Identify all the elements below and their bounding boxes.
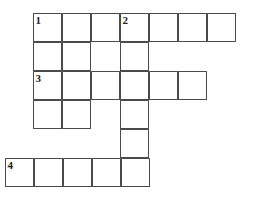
- crossword-grid: 1234: [0, 0, 257, 203]
- crossword-cell[interactable]: [62, 71, 91, 100]
- clue-number: 4: [8, 159, 14, 171]
- crossword-cell[interactable]: [62, 42, 91, 71]
- clue-number: 2: [123, 14, 129, 26]
- crossword-cell[interactable]: [34, 158, 63, 187]
- crossword-cell[interactable]: [91, 71, 120, 100]
- crossword-cell[interactable]: [62, 13, 91, 42]
- clue-number: 1: [36, 14, 42, 26]
- crossword-cell[interactable]: [63, 158, 92, 187]
- crossword-cell[interactable]: [120, 71, 149, 100]
- crossword-cell[interactable]: [120, 42, 149, 71]
- crossword-cell[interactable]: [92, 158, 121, 187]
- clue-number: 3: [36, 72, 42, 84]
- crossword-cell[interactable]: [120, 100, 149, 129]
- crossword-cell[interactable]: [207, 13, 236, 42]
- crossword-cell[interactable]: [62, 100, 91, 129]
- crossword-cell[interactable]: [178, 71, 207, 100]
- crossword-cell[interactable]: 1: [33, 13, 62, 42]
- crossword-cell[interactable]: 2: [120, 13, 149, 42]
- crossword-cell[interactable]: [121, 158, 150, 187]
- crossword-cell[interactable]: [33, 100, 62, 129]
- crossword-cell[interactable]: [91, 13, 120, 42]
- crossword-cell[interactable]: [178, 13, 207, 42]
- crossword-cell[interactable]: [120, 129, 149, 158]
- crossword-cell[interactable]: [33, 42, 62, 71]
- crossword-puzzle: 1234: [0, 0, 257, 203]
- crossword-cell[interactable]: 4: [5, 158, 34, 187]
- crossword-cell[interactable]: 3: [33, 71, 62, 100]
- crossword-cell[interactable]: [149, 13, 178, 42]
- crossword-cell[interactable]: [149, 71, 178, 100]
